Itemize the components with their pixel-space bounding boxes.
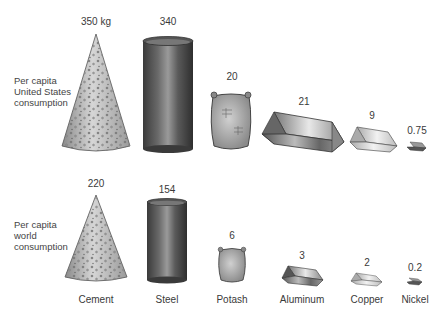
value-us-potash: 20 <box>226 71 237 82</box>
value-world-steel: 154 <box>159 184 176 195</box>
value-world-potash: 6 <box>229 230 235 241</box>
value-us-copper: 9 <box>369 110 375 121</box>
value-us-steel: 340 <box>160 16 177 27</box>
steel-cylinder-icon-world <box>146 198 188 284</box>
nickel-ingot-icon-world <box>406 277 424 286</box>
category-label-potash: Potash <box>216 294 247 305</box>
copper-ingot-icon-world <box>350 271 384 287</box>
value-us-cement: 350 kg <box>81 16 111 27</box>
row-label-world-line2: world <box>14 230 68 241</box>
aluminum-ingot-icon-world <box>280 264 326 288</box>
value-us-nickel: 0.75 <box>407 125 426 136</box>
category-label-nickel: Nickel <box>401 294 428 305</box>
value-world-cement: 220 <box>88 178 105 189</box>
potash-sack-icon-world <box>216 244 248 284</box>
cement-cone-icon <box>60 32 132 155</box>
aluminum-ingot-icon <box>260 108 350 154</box>
category-label-copper: Copper <box>351 294 384 305</box>
nickel-ingot-icon <box>406 140 428 152</box>
value-world-nickel: 0.2 <box>408 262 422 273</box>
category-label-steel: Steel <box>156 294 179 305</box>
value-us-aluminum: 21 <box>298 96 309 107</box>
cement-cone-icon-world <box>63 193 129 283</box>
row-label-world-line3: consumption <box>14 241 68 252</box>
potash-sack-icon <box>208 88 254 152</box>
value-world-copper: 2 <box>364 257 370 268</box>
value-world-aluminum: 3 <box>299 250 305 261</box>
category-label-aluminum: Aluminum <box>280 294 324 305</box>
category-label-cement: Cement <box>78 294 113 305</box>
copper-ingot-icon <box>348 124 400 154</box>
steel-cylinder-icon <box>142 36 194 154</box>
row-label-world-line1: Per capita <box>14 219 68 230</box>
row-label-world: Per capita world consumption <box>14 219 68 252</box>
